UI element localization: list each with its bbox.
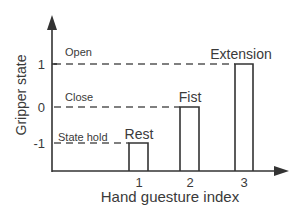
- y-axis-arrow-icon: [47, 15, 57, 30]
- bar-label-extension: Extension: [210, 46, 271, 62]
- y-tick-label-neg1: -1: [33, 136, 45, 151]
- y-axis-title: Gripper state: [13, 54, 29, 135]
- x-tick-label-3: 3: [240, 175, 247, 190]
- bar-rest: [129, 143, 148, 171]
- gripper-state-chart: 1 0 -1 Open Close State hold Rest Fist E…: [0, 0, 301, 210]
- bar-fist: [180, 107, 199, 171]
- x-axis-title: Hand guesture index: [101, 188, 240, 205]
- state-label-open: Open: [65, 46, 92, 58]
- y-tick-label-1: 1: [38, 57, 45, 72]
- state-label-close: Close: [65, 91, 93, 103]
- bar-label-rest: Rest: [125, 126, 154, 142]
- bar-extension: [235, 64, 253, 171]
- bars: [129, 64, 253, 171]
- y-tick-label-0: 0: [38, 100, 45, 115]
- state-label-state-hold: State hold: [58, 131, 108, 143]
- bar-label-fist: Fist: [179, 89, 202, 105]
- x-axis-arrow-icon: [274, 166, 289, 176]
